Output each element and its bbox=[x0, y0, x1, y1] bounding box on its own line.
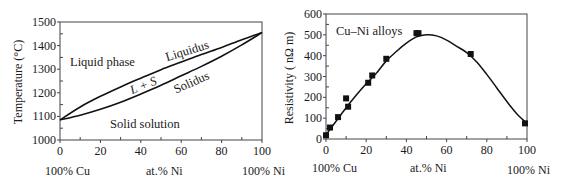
data-point-marker bbox=[345, 104, 351, 110]
phase-diagram-chart: 100011001200130014001500 020406080100 Te… bbox=[11, 15, 286, 178]
x-tick-label: 80 bbox=[481, 143, 493, 157]
data-point-marker bbox=[343, 95, 349, 101]
x-tick-label: 0 bbox=[323, 143, 329, 157]
y-tick-label: 300 bbox=[304, 70, 322, 84]
data-point-marker bbox=[365, 80, 371, 86]
x-tick-label: 40 bbox=[400, 143, 412, 157]
fit-curve bbox=[326, 35, 527, 135]
solidus-label: Solidus bbox=[171, 68, 211, 96]
data-point-marker bbox=[468, 51, 474, 57]
data-point-marker bbox=[369, 72, 375, 78]
x-left-end-label: 100% Cu bbox=[45, 164, 90, 178]
x-tick-label: 60 bbox=[441, 143, 453, 157]
x-left-end-label: 100% Cu bbox=[312, 161, 357, 175]
y-tick-label: 1100 bbox=[32, 109, 56, 123]
y-tick-label: 0 bbox=[316, 132, 322, 146]
y-axis-title: Temperature (°C) bbox=[11, 40, 25, 124]
data-point-marker bbox=[327, 125, 333, 131]
x-right-end-label: 100% Ni bbox=[242, 164, 286, 178]
phase-curves bbox=[60, 33, 262, 120]
y-axis-ticks: 0100200300400500600 bbox=[304, 7, 329, 146]
resistivity-chart: 0100200300400500600 020406080100 Resisti… bbox=[282, 7, 551, 177]
y-tick-label: 1400 bbox=[32, 39, 56, 53]
y-tick-label: 100 bbox=[304, 111, 322, 125]
x-right-end-label: 100% Ni bbox=[507, 163, 551, 177]
x-tick-label: 20 bbox=[94, 144, 106, 158]
y-tick-label: 1200 bbox=[32, 86, 56, 100]
liquidus-curve bbox=[60, 33, 262, 120]
data-point-marker bbox=[335, 114, 341, 120]
y-tick-label: 200 bbox=[304, 90, 322, 104]
x-axis-title: at.% Ni bbox=[410, 161, 447, 175]
y-tick-label: 500 bbox=[304, 28, 322, 42]
data-points bbox=[323, 30, 528, 138]
x-tick-label: 60 bbox=[175, 144, 187, 158]
legend-text: Cu–Ni alloys bbox=[336, 24, 402, 38]
data-point-marker bbox=[383, 56, 389, 62]
x-tick-label: 100 bbox=[253, 144, 271, 158]
liquid-phase-label: Liquid phase bbox=[70, 55, 135, 69]
x-tick-label: 40 bbox=[135, 144, 147, 158]
x-tick-label: 100 bbox=[518, 143, 536, 157]
y-tick-label: 1300 bbox=[32, 62, 56, 76]
x-tick-label: 20 bbox=[360, 143, 372, 157]
data-point-marker bbox=[522, 120, 528, 126]
y-tick-label: 1500 bbox=[32, 15, 56, 29]
y-axis-ticks: 100011001200130014001500 bbox=[32, 15, 63, 147]
y-axis-title: Resistivity ( nΩ m) bbox=[282, 32, 296, 125]
x-tick-label: 80 bbox=[216, 144, 228, 158]
two-phase-label: L + S bbox=[127, 73, 160, 97]
data-point-marker bbox=[415, 30, 421, 36]
y-tick-label: 600 bbox=[304, 7, 322, 21]
data-point-marker bbox=[323, 132, 329, 138]
charts-canvas: 100011001200130014001500 020406080100 Te… bbox=[0, 0, 563, 185]
x-axis-title: at.% Ni bbox=[146, 164, 183, 178]
y-tick-label: 400 bbox=[304, 49, 322, 63]
fit-curve-line bbox=[326, 35, 527, 135]
solidus-curve bbox=[60, 33, 262, 120]
x-tick-label: 0 bbox=[57, 144, 63, 158]
solid-solution-label: Solid solution bbox=[110, 117, 181, 131]
y-tick-label: 1000 bbox=[32, 133, 56, 147]
